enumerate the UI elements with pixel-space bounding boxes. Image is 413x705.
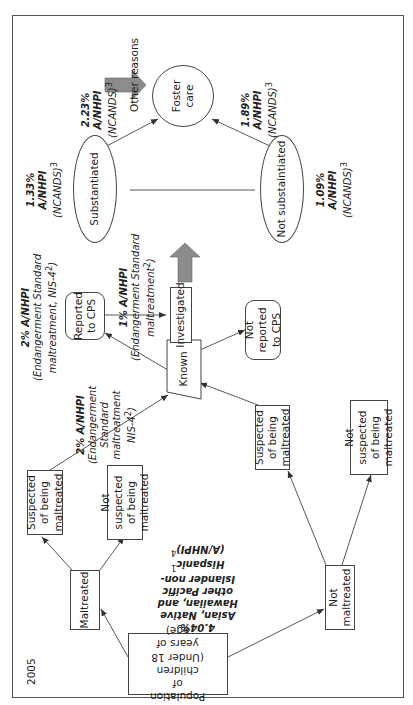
foster-sub-pct: 2.23%	[80, 93, 91, 128]
substantiated-group: A/NHPI	[37, 170, 48, 209]
reported-annotation: 2% A/NHPI (Endangerment Standard maltrea…	[20, 250, 59, 385]
foster-notsub-pct: 1.89%	[240, 93, 251, 128]
not-substantiated-pct: 1.09%	[315, 173, 326, 208]
not-substantiated-annotation: 1.09% A/NHPI (NCANDS)3	[315, 155, 354, 225]
substantiated-annotation: 1.33% A/NHPI (NCANDS)3	[25, 155, 64, 225]
known-source: (Endangerment Standard maltreatment NIS-…	[87, 386, 137, 464]
reported-source: (Endangerment Standard maltreatment, NIS…	[32, 254, 58, 381]
population-box: Population of children (Under 18 years o…	[128, 633, 228, 695]
footnote-3: 3	[49, 162, 59, 167]
flow-diagram: 2005 Population of children (Under 18 ye…	[0, 0, 413, 705]
not-reported-to-cps-box: Not reported to CPS	[245, 300, 281, 360]
not-suspected-bottom-box: Not suspected of being maltreated	[350, 400, 388, 475]
footnote-4: 4	[171, 548, 176, 558]
other-reasons-label: Other reasons	[128, 30, 141, 120]
foster-sub-source: (NCANDS)	[107, 87, 118, 138]
reported-to-cps-box: Reported to CPS	[65, 292, 105, 340]
suspected-bottom-box: Suspected of being maltreated	[255, 405, 290, 470]
footnote-2: 2	[44, 266, 54, 271]
footnote-2: 2	[123, 411, 133, 416]
foster-from-not-substantiated-annotation: 1.89% A/NHPI (NCANDS)3	[240, 75, 279, 145]
substantiated-pct: 1.33%	[25, 173, 36, 208]
footnote-2: 2	[142, 262, 152, 267]
substantiated-source: (NCANDS)	[52, 167, 63, 218]
population-pct: 4.04%	[180, 622, 215, 633]
investigated-annotation: 1% A/NHPI (Endangerment Standard maltrea…	[118, 230, 157, 365]
reported-pct: 2% A/NHPI	[20, 288, 31, 348]
maltreated-box: Maltreated	[70, 570, 100, 630]
population-group: Asian, Native Hawaiian, and other Pacifi…	[157, 559, 237, 621]
foster-from-substantiated-annotation: 2.23% A/NHPI (NCANDS)3	[80, 75, 119, 145]
footnote-1: 1	[171, 563, 176, 573]
known-annotation: 2% A/NHPI (Endangerment Standard maltrea…	[75, 385, 138, 465]
population-label: Population of children (Under 18 years o…	[150, 625, 205, 704]
known-pct: 2% A/NHPI	[75, 395, 86, 455]
not-substantiated-ellipse: Not substaintiated	[260, 135, 304, 243]
substantiated-ellipse: Substantiated	[73, 135, 117, 243]
not-substantiated-group: A/NHPI	[327, 170, 338, 209]
foster-sub-group: A/NHPI	[92, 90, 103, 129]
not-substantiated-source: (NCANDS)	[342, 167, 353, 218]
population-abbr: (A/NHPI)	[176, 543, 224, 554]
population-annotation: 4.04% Asian, Native Hawaiian, and other …	[145, 545, 250, 630]
foster-care-circle: Foster care	[152, 65, 214, 127]
foster-notsub-group: A/NHPI	[252, 90, 263, 129]
year-label: 2005	[25, 658, 37, 685]
not-suspected-top-box: Not suspected of being maltreated	[107, 465, 143, 540]
investigated-pct: 1% A/NHPI	[118, 268, 129, 328]
investigated-source: (Endangerment Standard maltreatment	[130, 234, 156, 361]
footnote-3: 3	[264, 82, 274, 87]
footnote-3: 3	[339, 162, 349, 167]
footnote-3: 3	[104, 82, 114, 87]
suspected-top-box: Suspected of being maltreated	[27, 470, 63, 535]
investigated-box: Investigated	[170, 287, 192, 343]
not-maltreated-box: Not maltreated	[325, 565, 355, 630]
foster-notsub-source: (NCANDS)	[267, 87, 278, 138]
